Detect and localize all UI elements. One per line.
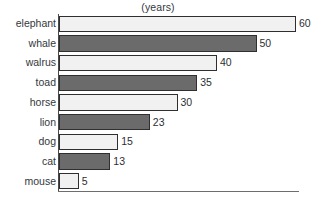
bar-value-label: 30 <box>181 93 193 113</box>
bar-row: dog15 <box>0 132 316 152</box>
plot-area: elephant60whale50walrus40toad35horse30li… <box>0 14 316 192</box>
bar-value-label: 5 <box>82 172 88 192</box>
category-label: whale <box>0 34 56 54</box>
bar-row: mouse5 <box>0 172 316 192</box>
category-label: dog <box>0 132 56 152</box>
bar-row: toad35 <box>0 73 316 93</box>
bar-chart: (years) elephant60whale50walrus40toad35h… <box>0 0 316 206</box>
bar <box>59 173 79 189</box>
bar <box>59 75 197 91</box>
chart-title: (years) <box>0 1 316 13</box>
bar-value-label: 13 <box>113 152 125 172</box>
category-label: cat <box>0 152 56 172</box>
bar-value-label: 35 <box>200 73 212 93</box>
bar <box>59 114 150 130</box>
bar <box>59 94 178 110</box>
bar-value-label: 40 <box>220 53 232 73</box>
bar-value-label: 50 <box>260 34 272 54</box>
bar-row: horse30 <box>0 93 316 113</box>
bar <box>59 55 217 71</box>
bar-value-label: 23 <box>153 113 165 133</box>
bar <box>59 16 296 32</box>
category-label: lion <box>0 113 56 133</box>
category-label: walrus <box>0 53 56 73</box>
category-label: elephant <box>0 14 56 34</box>
bar-row: cat13 <box>0 152 316 172</box>
bar <box>59 153 110 169</box>
bar-row: walrus40 <box>0 53 316 73</box>
bar-value-label: 60 <box>299 14 311 34</box>
bar <box>59 35 257 51</box>
bar-row: whale50 <box>0 34 316 54</box>
bar-row: elephant60 <box>0 14 316 34</box>
category-label: toad <box>0 73 56 93</box>
bar-value-label: 15 <box>121 132 133 152</box>
bar-row: lion23 <box>0 113 316 133</box>
bar <box>59 134 118 150</box>
category-label: mouse <box>0 172 56 192</box>
category-label: horse <box>0 93 56 113</box>
